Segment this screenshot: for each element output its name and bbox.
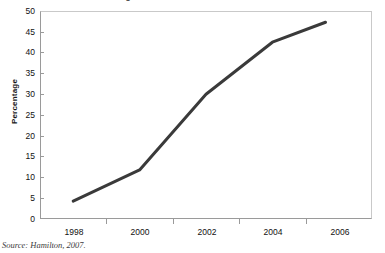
- figure-container: Percentage of households with broadband …: [0, 0, 385, 253]
- data-line-series: [0, 0, 385, 253]
- source-note: Source: Hamilton, 2007.: [2, 240, 86, 250]
